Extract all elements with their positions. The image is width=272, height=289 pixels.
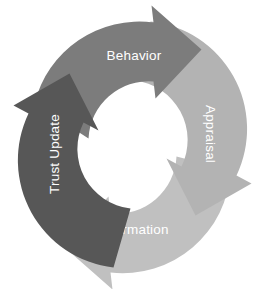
stage-trust-update[interactable]: Trust Update bbox=[14, 74, 131, 268]
trust-update-arrow-shape bbox=[14, 74, 131, 268]
appraisal-label: Appraisal bbox=[203, 105, 218, 163]
behavior-label: Behavior bbox=[107, 48, 162, 63]
cycle-diagram-svg: (Dis)confirmation Appraisal Behavior Tru… bbox=[0, 0, 272, 289]
cycle-diagram: (Dis)confirmation Appraisal Behavior Tru… bbox=[0, 0, 272, 289]
trust-update-label: Trust Update bbox=[47, 114, 62, 194]
